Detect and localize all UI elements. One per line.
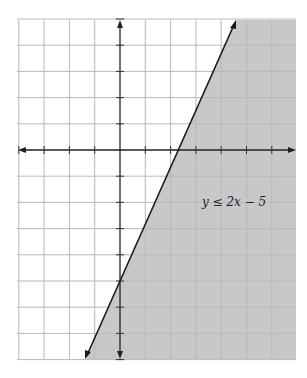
inequality-label: y ≤ 2x − 5 xyxy=(201,195,266,209)
shaded-region xyxy=(86,20,296,359)
y-axis-up-arrow-icon xyxy=(117,20,123,28)
inequality-graph: y ≤ 2x − 5 xyxy=(0,0,307,378)
boundary-top-arrow-icon xyxy=(230,20,236,29)
